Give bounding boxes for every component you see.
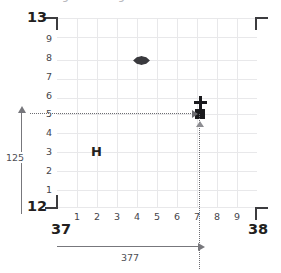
y-tick-label: 3 <box>38 146 52 157</box>
arrowhead-up-icon <box>196 121 204 127</box>
easting-dimension-label: 377 <box>120 252 140 263</box>
x-tick-label: 2 <box>90 211 104 222</box>
gridline-horizontal <box>57 152 257 153</box>
x-tick-label: 5 <box>150 211 164 222</box>
y-tick-label: 7 <box>38 71 52 82</box>
clipped-glyph-left: 9 <box>62 0 69 5</box>
northing-label-top: 13 <box>27 10 47 25</box>
gridline-horizontal <box>57 171 257 172</box>
plus-marker <box>194 96 207 109</box>
gridline-horizontal <box>57 190 257 191</box>
easting-label-left: 37 <box>51 222 71 237</box>
arrowhead-right-icon <box>192 110 198 118</box>
x-tick-label: 8 <box>210 211 224 222</box>
x-tick-label: 6 <box>170 211 184 222</box>
x-tick-label: 7 <box>190 211 204 222</box>
y-tick-label: 2 <box>38 165 52 176</box>
gridline-horizontal <box>57 79 257 80</box>
gridline-horizontal <box>57 60 257 61</box>
x-tick-label: 3 <box>110 211 124 222</box>
northing-leader-line <box>30 113 197 114</box>
northing-dimension-label: 125 <box>5 152 25 163</box>
y-tick-label: 4 <box>38 127 52 138</box>
gridline-horizontal <box>57 114 257 115</box>
gridline-horizontal <box>57 207 257 208</box>
gridline-horizontal <box>57 37 257 38</box>
x-tick-label: 9 <box>230 211 244 222</box>
feature-label-h: H <box>91 145 102 159</box>
y-tick-label: 1 <box>38 184 52 195</box>
arrowhead-right-icon <box>198 243 205 251</box>
y-tick-label: 9 <box>38 33 52 44</box>
gridline-horizontal <box>57 133 257 134</box>
easting-dimension-line <box>57 246 199 247</box>
easting-label-right: 38 <box>248 222 268 237</box>
gridline-horizontal <box>57 18 257 19</box>
x-tick-label: 4 <box>130 211 144 222</box>
x-tick-label: 1 <box>70 211 84 222</box>
arrowhead-up-icon <box>18 106 26 113</box>
y-tick-label: 8 <box>38 52 52 63</box>
gridline-horizontal <box>57 98 257 99</box>
clipped-top-text-row: 9 9 <box>0 0 281 7</box>
clipped-glyph-right: 9 <box>118 0 125 5</box>
y-tick-label: 6 <box>38 90 52 101</box>
northing-label-bottom: 12 <box>27 199 47 214</box>
northing-dimension-line <box>21 113 22 214</box>
gridline-vertical <box>237 18 238 208</box>
gridline-vertical <box>217 18 218 208</box>
